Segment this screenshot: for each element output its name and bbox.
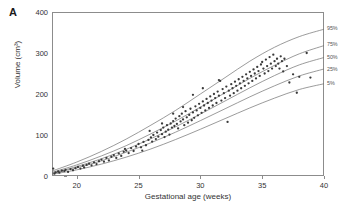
data-point (155, 138, 157, 140)
data-point (183, 124, 185, 126)
percentile-curve-75 (52, 46, 324, 173)
data-point (265, 58, 267, 60)
data-point (177, 127, 179, 129)
data-point (120, 155, 122, 157)
x-tick-label: 40 (309, 181, 339, 190)
data-point (178, 115, 180, 117)
data-point (255, 77, 257, 79)
data-point (246, 77, 248, 79)
data-point (196, 109, 198, 111)
data-point (223, 92, 225, 94)
percentile-label-50: 50% (327, 54, 338, 60)
data-point (193, 117, 195, 119)
data-point (64, 169, 66, 171)
y-tick-mark (64, 176, 67, 177)
data-point (165, 131, 167, 133)
percentile-curve-95 (52, 29, 324, 171)
x-tick-label: 30 (185, 181, 215, 190)
data-point (252, 68, 254, 70)
data-point (125, 149, 127, 151)
percentile-curve-50 (52, 58, 324, 174)
data-point (271, 67, 273, 69)
data-point (187, 122, 189, 124)
data-point (105, 157, 107, 159)
data-point (137, 143, 139, 145)
data-point (241, 76, 243, 78)
data-point (192, 111, 194, 113)
data-point (205, 98, 207, 100)
data-point (238, 78, 240, 80)
data-point (245, 73, 247, 75)
data-point (171, 126, 173, 128)
data-point (215, 102, 217, 104)
data-point (151, 140, 153, 142)
data-point (181, 113, 183, 115)
data-point (130, 147, 132, 149)
data-point (192, 94, 194, 96)
data-point (276, 58, 278, 60)
data-point (259, 75, 261, 77)
x-tick-mark (324, 176, 325, 179)
data-point (282, 70, 284, 72)
data-point (67, 171, 69, 173)
data-point (251, 80, 253, 82)
data-point (309, 76, 311, 78)
data-point (212, 104, 214, 106)
percentile-label-75: 75% (327, 41, 338, 47)
data-point (52, 167, 54, 169)
data-point (55, 171, 57, 173)
data-point (217, 90, 219, 92)
data-point (197, 114, 199, 116)
data-point (221, 88, 223, 90)
data-point (98, 160, 100, 162)
data-point (198, 103, 200, 105)
data-point (233, 92, 235, 94)
data-point (83, 166, 85, 168)
data-point (199, 107, 201, 109)
data-point (218, 79, 220, 81)
percentile-curve-25 (52, 69, 324, 174)
data-point (149, 130, 151, 132)
data-point (231, 87, 233, 89)
data-point (268, 56, 270, 58)
percentile-curve-5 (52, 84, 324, 175)
data-point (189, 108, 191, 110)
percentile-label-25: 25% (327, 66, 338, 72)
data-point (186, 116, 188, 118)
data-point (229, 94, 231, 96)
y-tick-label: 400 (22, 8, 48, 17)
data-point (266, 65, 268, 67)
data-point (69, 168, 71, 170)
data-point (162, 126, 164, 128)
data-point (160, 129, 162, 131)
data-point (79, 167, 81, 169)
y-tick-label: 100 (22, 131, 48, 140)
data-point (167, 129, 169, 131)
data-point (140, 146, 142, 148)
data-point (275, 65, 277, 67)
data-point (74, 167, 76, 169)
y-tick-label: 200 (22, 90, 48, 99)
percentile-label-95: 95% (327, 25, 338, 31)
data-point (239, 82, 241, 84)
data-point (85, 164, 87, 166)
data-point (88, 163, 90, 165)
figure-panel-a: A Volume (cm³) 0100200300400 2025303540 … (0, 0, 343, 208)
data-point (278, 67, 280, 69)
data-point (296, 92, 298, 94)
y-tick-label: 300 (22, 49, 48, 58)
data-point (113, 154, 115, 156)
data-point (202, 100, 204, 102)
data-point (236, 90, 238, 92)
data-point (142, 141, 144, 143)
data-point (108, 159, 110, 161)
data-point (250, 75, 252, 77)
data-point (257, 70, 259, 72)
data-point (77, 166, 79, 168)
data-point (128, 152, 130, 154)
data-point (163, 136, 165, 138)
data-point (93, 161, 95, 163)
data-point (182, 118, 184, 120)
data-point (272, 53, 274, 55)
data-point (267, 70, 269, 72)
